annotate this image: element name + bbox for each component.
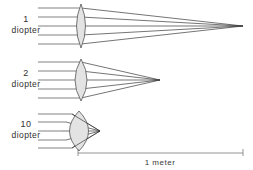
converging-ray bbox=[81, 71, 160, 80]
power-number-10: 10 bbox=[21, 119, 32, 129]
row-10-diopter: 10 diopter bbox=[12, 111, 100, 151]
power-number-2: 2 bbox=[23, 68, 28, 78]
converging-ray bbox=[81, 8, 243, 26]
incoming-rays-1 bbox=[38, 8, 81, 44]
scale-bar-label: 1 meter bbox=[145, 158, 176, 167]
lens-10-diopter bbox=[70, 111, 89, 151]
power-number-1: 1 bbox=[23, 14, 28, 24]
converging-ray bbox=[81, 17, 243, 26]
converging-ray bbox=[81, 26, 243, 44]
converging-ray bbox=[81, 80, 160, 98]
unit-label-10: diopter bbox=[12, 130, 41, 140]
converging-rays-2 bbox=[81, 62, 160, 98]
converging-ray bbox=[81, 62, 160, 80]
incoming-rays-2 bbox=[38, 62, 81, 98]
converging-ray bbox=[81, 80, 160, 89]
row-1-diopter: 1 diopter bbox=[12, 4, 243, 48]
unit-label-2: diopter bbox=[12, 79, 41, 89]
lens-2-diopter bbox=[75, 59, 87, 101]
converging-rays-1 bbox=[81, 8, 243, 44]
optics-diagram: 1 diopter 2 diopter bbox=[0, 0, 253, 170]
scale-bar: 1 meter bbox=[78, 149, 243, 167]
unit-label-1: diopter bbox=[12, 25, 41, 35]
optics-figure-svg: 1 diopter 2 diopter bbox=[0, 0, 253, 170]
row-2-diopter: 2 diopter bbox=[12, 59, 160, 101]
converging-ray bbox=[81, 26, 243, 35]
lens-1-diopter bbox=[77, 4, 86, 48]
